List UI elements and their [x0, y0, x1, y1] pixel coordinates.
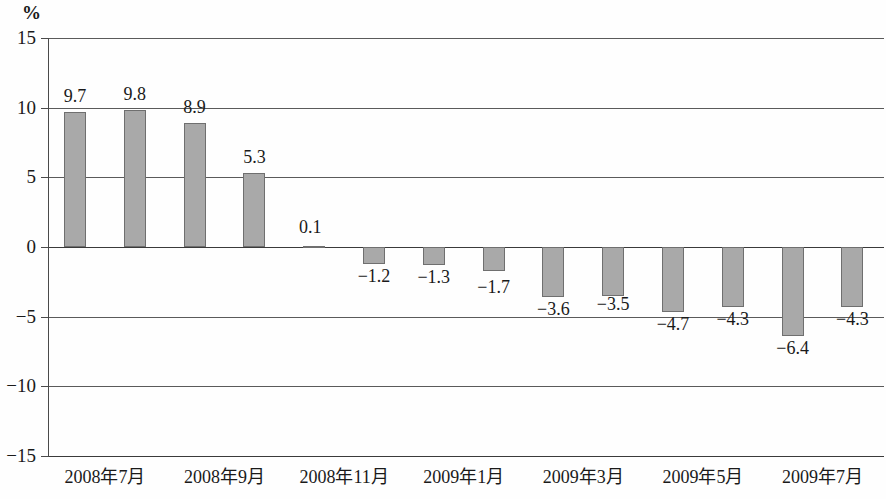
y-axis-tick-label: −5: [16, 306, 36, 328]
bar: [722, 247, 744, 307]
gridline-0: [48, 247, 884, 248]
gridline-5: [48, 177, 884, 178]
gridline-10: [48, 108, 884, 109]
bar: [184, 123, 206, 247]
x-axis-labels: 2008年7月2008年9月2008年11月2009年1月2009年3月2009…: [48, 462, 884, 498]
bar: [243, 173, 265, 247]
bar: [782, 247, 804, 336]
bar-value-label: −4.3: [716, 309, 749, 330]
bar: [303, 246, 325, 248]
y-axis-tick-label: 15: [17, 27, 36, 49]
bar-value-label: −4.7: [657, 314, 690, 335]
x-axis-tick-label: 2009年5月: [662, 462, 743, 488]
bar-value-label: −3.6: [537, 299, 570, 320]
bar-value-label: 5.3: [243, 147, 266, 168]
bar: [64, 112, 86, 247]
bar-value-label: −4.3: [836, 309, 869, 330]
x-axis-tick-label: 2009年7月: [782, 462, 863, 488]
gridline--10: [48, 386, 884, 387]
y-axis-tick-label: 5: [27, 166, 37, 188]
bar: [483, 247, 505, 271]
x-axis-tick-label: 2008年11月: [299, 462, 388, 488]
bar-value-label: 0.1: [299, 217, 322, 238]
x-axis-tick-label: 2008年9月: [184, 462, 265, 488]
y-tick-0: [41, 247, 49, 248]
gridline--15: [48, 456, 884, 457]
y-tick-15: [41, 38, 49, 39]
gridline--5: [48, 317, 884, 318]
bar: [423, 247, 445, 265]
bar: [841, 247, 863, 307]
y-tick--5: [41, 317, 49, 318]
bar: [124, 110, 146, 247]
bar-value-label: −1.7: [477, 277, 510, 298]
bar: [662, 247, 684, 312]
y-tick-10: [41, 108, 49, 109]
y-axis-tick-label: 0: [27, 236, 37, 258]
x-axis-tick-label: 2009年3月: [543, 462, 624, 488]
bar-value-label: −3.5: [597, 294, 630, 315]
bar: [542, 247, 564, 297]
y-axis-unit-label: %: [22, 2, 41, 24]
plot-area: 151050−5−10−159.79.88.95.30.1−1.2−1.3−1.…: [48, 38, 884, 456]
bar-value-label: −6.4: [776, 338, 809, 359]
bar-value-label: 9.8: [124, 84, 147, 105]
y-tick-5: [41, 177, 49, 178]
bar-value-label: −1.3: [417, 267, 450, 288]
gridline-15: [48, 38, 884, 39]
bar-value-label: 8.9: [183, 97, 206, 118]
y-axis-tick-label: −10: [6, 375, 36, 397]
x-axis-tick-label: 2009年1月: [423, 462, 504, 488]
bar: [602, 247, 624, 296]
bar: [363, 247, 385, 264]
bar-value-label: 9.7: [64, 86, 87, 107]
bar-value-label: −1.2: [358, 266, 391, 287]
x-axis-tick-label: 2008年7月: [64, 462, 145, 488]
y-tick--10: [41, 386, 49, 387]
chart-container: % 151050−5−10−159.79.88.95.30.1−1.2−1.3−…: [0, 0, 886, 499]
y-axis-tick-label: −15: [6, 445, 36, 467]
y-tick--15: [41, 456, 49, 457]
y-axis-tick-label: 10: [17, 97, 36, 119]
